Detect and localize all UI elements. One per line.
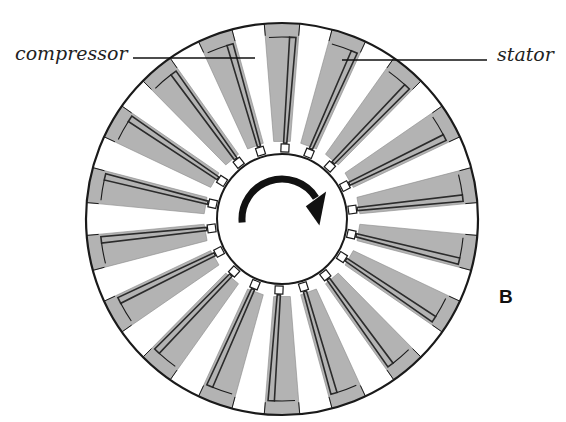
hub-tab bbox=[208, 199, 218, 209]
compressor-stator-diagram: compressor stator B bbox=[0, 0, 566, 422]
hub-tab bbox=[347, 229, 357, 239]
hub-tab bbox=[275, 286, 283, 294]
stator-label: stator bbox=[497, 45, 554, 64]
hub-tab bbox=[298, 282, 308, 292]
hub-circle bbox=[217, 154, 347, 284]
compressor-label: compressor bbox=[15, 44, 128, 63]
stator-wedge bbox=[264, 23, 300, 141]
hub-tab bbox=[281, 144, 289, 152]
hub-tab bbox=[207, 224, 216, 233]
stator-wedge bbox=[264, 297, 300, 415]
rotor-hub bbox=[217, 154, 347, 284]
hub-tab bbox=[256, 146, 266, 156]
label-leader-lines bbox=[133, 58, 487, 60]
panel-letter: B bbox=[499, 287, 513, 306]
hub-tab bbox=[348, 205, 357, 214]
